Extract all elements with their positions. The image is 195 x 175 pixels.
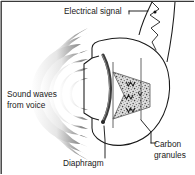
sound-wave-arc-7 (69, 78, 88, 110)
label-carbon-line2: granules (154, 150, 186, 160)
label-carbon-line1: Carbon (154, 139, 182, 149)
label-sound-waves-line1: Sound waves (7, 89, 57, 99)
label-electrical-signal: Electrical signal (64, 6, 122, 16)
diaphragm-anchor-dot (101, 120, 105, 124)
leader-carbon-granules (141, 120, 151, 143)
label-sound-waves-line2: from voice (7, 100, 46, 110)
handset-body-outline (84, 2, 175, 145)
electrical-signal-waveform (150, 2, 160, 50)
signal-node-dot (154, 11, 157, 14)
diagram-container: Electrical signal Sound waves from voice… (0, 0, 195, 175)
leader-diaphragm (104, 126, 105, 158)
microphone-diagram-svg: Electrical signal Sound waves from voice… (0, 0, 195, 175)
diaphragm (101, 55, 111, 124)
label-diaphragm: Diaphragm (63, 158, 104, 168)
carbon-granules-chamber (113, 58, 150, 128)
